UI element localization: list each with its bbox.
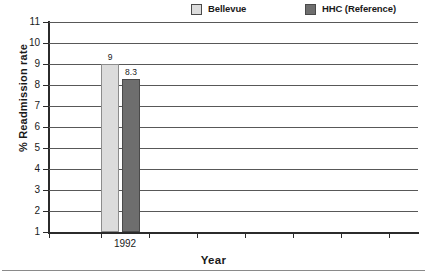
bar-hhc-reference bbox=[122, 79, 140, 232]
legend-label-bellevue: Bellevue bbox=[208, 4, 246, 14]
legend-item-hhc-reference: HHC (Reference) bbox=[305, 2, 396, 16]
x-tick-3 bbox=[197, 233, 198, 238]
y-tick-9 bbox=[43, 64, 48, 65]
y-tick-10 bbox=[43, 43, 48, 44]
legend-swatch-hhc-reference bbox=[305, 4, 316, 15]
footer-divider bbox=[2, 270, 425, 271]
y-tick-label-10: 10 bbox=[22, 38, 40, 48]
readmission-rate-bar-chart: Bellevue HHC (Reference) % Readmission r… bbox=[0, 0, 427, 273]
chart-legend: Bellevue HHC (Reference) bbox=[0, 2, 427, 18]
x-tick-1 bbox=[101, 233, 102, 238]
gridline-10 bbox=[49, 43, 418, 44]
x-tick-label-1992: 1992 bbox=[103, 239, 147, 249]
legend-label-hhc-reference: HHC (Reference) bbox=[322, 4, 396, 14]
y-tick-11 bbox=[43, 22, 48, 23]
bar-value-label-0: 9 bbox=[95, 53, 125, 62]
bar-value-label-1: 8.3 bbox=[116, 68, 146, 77]
y-tick-label-11: 11 bbox=[22, 17, 40, 27]
x-tick-5 bbox=[293, 233, 294, 238]
y-tick-label-1: 1 bbox=[22, 227, 40, 237]
x-tick-4 bbox=[245, 233, 246, 238]
y-tick-label-7: 7 bbox=[22, 101, 40, 111]
y-tick-label-3: 3 bbox=[22, 185, 40, 195]
legend-swatch-bellevue bbox=[191, 4, 202, 15]
bar-bellevue bbox=[101, 64, 119, 232]
y-tick-7 bbox=[43, 106, 48, 107]
y-tick-label-4: 4 bbox=[22, 164, 40, 174]
gridline-11 bbox=[49, 22, 418, 23]
plot-area: 98.3 bbox=[49, 22, 418, 232]
y-tick-label-2: 2 bbox=[22, 206, 40, 216]
y-tick-8 bbox=[43, 85, 48, 86]
y-tick-label-5: 5 bbox=[22, 143, 40, 153]
x-axis-title: Year bbox=[0, 254, 427, 266]
x-tick-7 bbox=[389, 233, 390, 238]
y-tick-6 bbox=[43, 127, 48, 128]
x-tick-6 bbox=[341, 233, 342, 238]
x-axis-line bbox=[48, 232, 419, 234]
y-tick-5 bbox=[43, 148, 48, 149]
x-tick-0 bbox=[49, 233, 50, 238]
legend-item-bellevue: Bellevue bbox=[191, 2, 246, 16]
x-tick-2 bbox=[149, 233, 150, 238]
y-tick-2 bbox=[43, 211, 48, 212]
y-tick-3 bbox=[43, 190, 48, 191]
y-tick-label-6: 6 bbox=[22, 122, 40, 132]
y-tick-4 bbox=[43, 169, 48, 170]
y-tick-label-8: 8 bbox=[22, 80, 40, 90]
y-tick-label-9: 9 bbox=[22, 59, 40, 69]
